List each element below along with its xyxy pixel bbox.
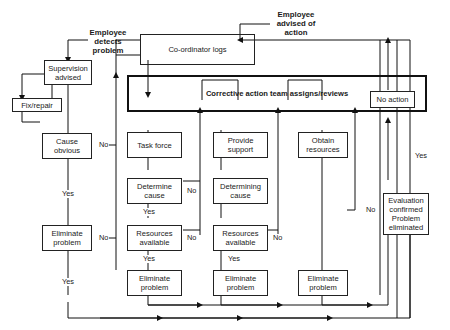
yes-label-evaluation: Yes xyxy=(414,152,428,160)
yes-label-resources-2: Yes xyxy=(227,255,241,263)
employee-advised-label: Employee advised of action xyxy=(270,10,322,37)
employee-detects-label: Employee detects problem xyxy=(88,28,128,55)
eliminate-problem-1-node: Eliminate problem xyxy=(127,270,182,296)
resources-available-1-node: Resources available xyxy=(127,225,182,251)
obtain-resources-node: Obtain resources xyxy=(298,132,348,158)
determining-cause-node: Determining cause xyxy=(213,178,268,204)
evaluation-node: Evaluation confirmed Problem eliminated xyxy=(383,193,429,235)
determine-cause-node: Determine cause xyxy=(127,178,182,204)
no-label-resources-2: No xyxy=(272,234,283,242)
no-label-cause-obvious: No xyxy=(98,141,109,149)
yes-label-eliminate-left: Yes xyxy=(61,278,75,286)
no-label-eliminate-left: No xyxy=(98,234,109,242)
no-label-evaluation: No xyxy=(365,206,376,214)
task-force-node: Task force xyxy=(127,132,182,158)
eliminate-problem-3-node: Eliminate problem xyxy=(298,270,348,296)
eliminate-problem-2-node: Eliminate problem xyxy=(213,270,268,296)
yes-label-determine-cause: Yes xyxy=(142,208,156,216)
yes-label-resources-1: Yes xyxy=(142,255,156,263)
no-action-node: No action xyxy=(370,91,415,108)
supervision-node: Supervision advised xyxy=(44,60,92,85)
provide-support-node: Provide support xyxy=(213,132,268,158)
coordinator-logs-node: Co-ordinator logs xyxy=(140,34,255,65)
no-label-resources-1: No xyxy=(186,234,197,242)
cause-obvious-node: Cause obvious xyxy=(42,133,92,159)
fix-repair-node: Fix/repair xyxy=(12,98,62,112)
no-label-determine-cause: No xyxy=(186,187,197,195)
resources-available-2-node: Resources available xyxy=(213,225,268,251)
eliminate-problem-left-node: Eliminate problem xyxy=(42,225,92,251)
corrective-action-team-label: Corrective action team assigns/reviews xyxy=(206,89,348,98)
yes-label-cause-obvious: Yes xyxy=(61,190,75,198)
